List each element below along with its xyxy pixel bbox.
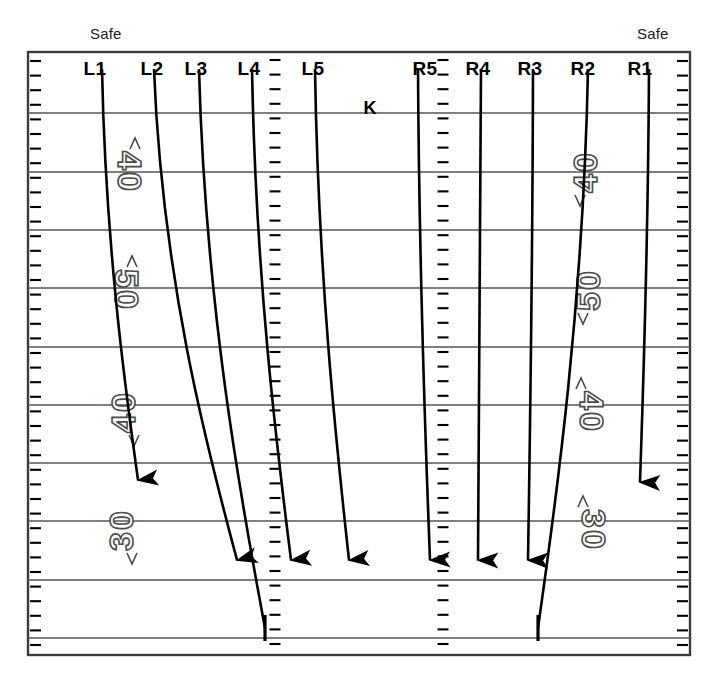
lane-label-R3: R3 xyxy=(518,58,543,80)
lane-label-L3: L3 xyxy=(185,58,208,80)
play-diagram: 4050403040504030 SafeSafe L1L2L3L4L5R5R4… xyxy=(0,0,715,687)
lane-label-R2: R2 xyxy=(571,58,596,80)
lane-label-L2: L2 xyxy=(141,58,164,80)
safe-right: Safe xyxy=(637,25,669,42)
field-canvas: 4050403040504030 xyxy=(0,0,715,687)
kicker-label: K xyxy=(364,98,377,119)
lane-label-R1: R1 xyxy=(628,58,653,80)
lane-label-L5: L5 xyxy=(302,58,325,80)
yard-number-right-7: 30 xyxy=(575,509,613,551)
lane-label-L1: L1 xyxy=(84,58,107,80)
lane-label-R4: R4 xyxy=(466,58,491,80)
yard-number-left-0: 40 xyxy=(111,151,149,193)
yard-number-right-6: 40 xyxy=(573,391,611,433)
safe-left: Safe xyxy=(90,25,122,42)
field-boundary xyxy=(28,52,690,655)
field-background xyxy=(28,52,690,655)
lane-label-L4: L4 xyxy=(238,58,261,80)
yard-number-left-2: 40 xyxy=(104,391,142,433)
lane-label-R5: R5 xyxy=(413,58,438,80)
yard-number-left-3: 30 xyxy=(102,509,140,551)
